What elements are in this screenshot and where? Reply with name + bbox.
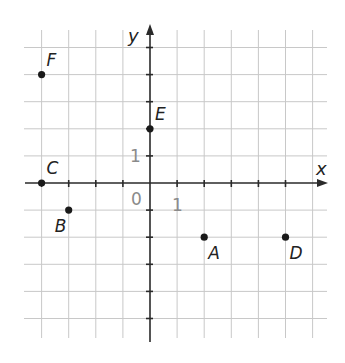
x-axis-arrow-icon	[317, 179, 328, 187]
point-a: A	[201, 234, 220, 264]
point-label: F	[47, 50, 57, 70]
point-label: D	[290, 243, 303, 263]
x-unit-label: 1	[172, 195, 183, 215]
point-label: E	[155, 104, 166, 124]
y-axis-label: y	[127, 25, 139, 46]
point-marker	[38, 179, 45, 186]
x-axis-label: x	[315, 158, 327, 179]
origin-label: 0	[131, 189, 142, 209]
point-marker	[65, 207, 72, 214]
point-marker	[282, 234, 289, 241]
point-b: B	[55, 207, 73, 237]
point-f: F	[38, 50, 57, 79]
point-label: A	[207, 243, 220, 263]
point-label: C	[47, 158, 59, 178]
point-marker	[201, 234, 208, 241]
point-marker	[38, 71, 45, 78]
y-axis-arrow-icon	[146, 24, 154, 35]
point-label: B	[55, 216, 67, 236]
y-unit-label: 1	[130, 146, 141, 166]
point-marker	[146, 125, 153, 132]
coordinate-plane: x y 0 1 1 ABCDEF	[0, 0, 345, 363]
